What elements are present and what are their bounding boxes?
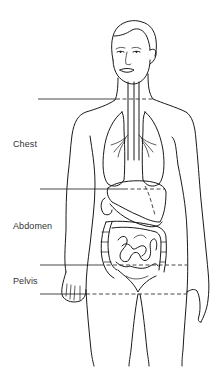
chest-label: Chest xyxy=(13,140,37,149)
body-outline xyxy=(62,74,209,366)
boundary-lines xyxy=(38,99,187,294)
body-illustration xyxy=(0,0,224,387)
liver-stomach xyxy=(101,181,166,227)
abdomen-label: Abdomen xyxy=(13,222,52,231)
anatomy-diagram: Chest Abdomen Pelvis xyxy=(0,0,224,387)
pelvis-label: Pelvis xyxy=(13,277,38,286)
trachea-esophagus xyxy=(128,82,139,160)
intestines xyxy=(101,221,166,292)
head xyxy=(112,21,157,84)
